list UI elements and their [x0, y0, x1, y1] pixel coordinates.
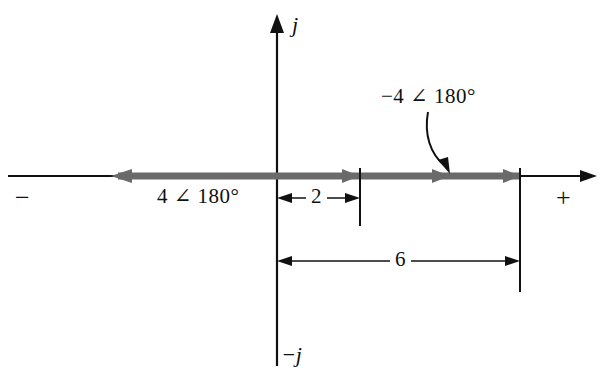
phasor-left-arrowhead [111, 169, 132, 183]
real-positive-label: + [556, 185, 571, 211]
phasor-left-label: 4 ∠ 180° [157, 186, 240, 207]
dimension-label-6: 6 [390, 249, 411, 270]
callout-arrow [427, 112, 450, 174]
phasor-arrowhead-at-2 [342, 169, 360, 183]
imaginary-axis [270, 14, 284, 366]
phasor-band [111, 169, 521, 183]
phasor-right-arrowhead [503, 169, 521, 183]
phasor-diagram: j −j − + 4 ∠ 180° −4 ∠ 180° 2 6 [0, 0, 601, 382]
dimension-label-2: 2 [306, 186, 327, 207]
imaginary-positive-label: j [292, 14, 298, 36]
phasor-arrowhead-mid [432, 169, 450, 183]
imaginary-negative-label: −j [281, 344, 302, 366]
phasor-right-label: −4 ∠ 180° [381, 86, 476, 107]
real-negative-label: − [15, 185, 30, 211]
diagram-canvas [0, 0, 601, 382]
extension-lines [360, 168, 520, 292]
